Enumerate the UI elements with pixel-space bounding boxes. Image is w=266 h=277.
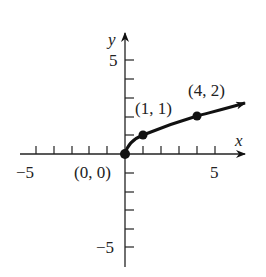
point-4-2 [193, 112, 202, 121]
x-tick-label-5: 5 [210, 163, 219, 182]
y-tick-label-5: 5 [109, 51, 118, 70]
point-label-4-2: (4, 2) [188, 81, 225, 100]
x-axis-label: x [234, 131, 243, 150]
chart-canvas: y x 5 −5 −5 5 (0, 0) (1, 1) (4, 2) [0, 0, 266, 277]
point-1-1 [139, 131, 148, 140]
y-axis-label: y [106, 30, 116, 49]
point-label-0-0: (0, 0) [74, 163, 111, 182]
x-tick-label-neg5: −5 [16, 163, 34, 182]
y-tick-label-neg5: −5 [96, 238, 114, 257]
point-0-0 [120, 149, 130, 159]
point-label-1-1: (1, 1) [135, 99, 172, 118]
